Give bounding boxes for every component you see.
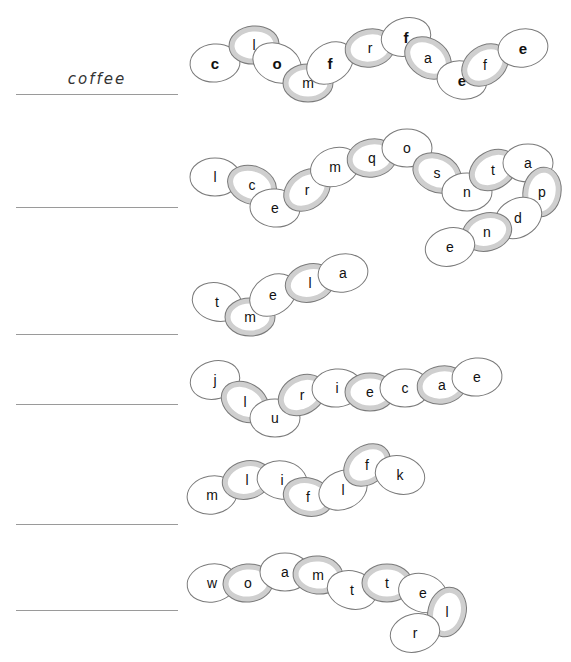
- ring-letter: p: [538, 184, 546, 200]
- ring-letter: e: [446, 239, 454, 255]
- ring-letter: l: [341, 482, 344, 498]
- chain-ring: e: [499, 28, 548, 67]
- ring-letter: o: [244, 575, 252, 591]
- chain-ring: e: [454, 359, 501, 395]
- ring-letter: a: [281, 564, 289, 580]
- ring-letter: s: [434, 165, 441, 181]
- ring-letter: r: [305, 182, 310, 198]
- ring-letter: d: [514, 210, 522, 226]
- ring-letter: n: [463, 184, 471, 200]
- chain-ring: k: [375, 454, 426, 496]
- ring-letter: t: [350, 582, 354, 598]
- ring-letter: a: [424, 50, 432, 66]
- ring-letter: a: [339, 265, 347, 281]
- ring-letter: e: [366, 384, 374, 400]
- ring-letter: e: [519, 40, 527, 57]
- ring-letter: o: [272, 55, 281, 72]
- ring-letter: j: [212, 372, 216, 388]
- ring-letter: f: [365, 457, 369, 473]
- ring-letter: e: [271, 200, 279, 216]
- ring-letter: q: [368, 150, 376, 166]
- ring-letter: c: [211, 55, 219, 72]
- ring-letter: u: [271, 410, 279, 426]
- ring-letter: f: [306, 489, 310, 505]
- ring-letter: a: [524, 155, 532, 171]
- ring-letter: l: [445, 604, 448, 620]
- chain-2: lcermqosntapdne: [193, 132, 562, 268]
- ring-letter: r: [413, 625, 418, 641]
- chain-ring: e: [425, 226, 476, 268]
- chain-3: tmela: [192, 253, 368, 333]
- letter-chains: clomfrfaefelcermqosntapdnetmelajluriecae…: [0, 0, 571, 662]
- ring-letter: m: [312, 567, 324, 583]
- chain-5: mliflfk: [188, 439, 426, 518]
- ring-letter: k: [397, 467, 405, 483]
- ring-letter: l: [213, 169, 216, 185]
- ring-letter: a: [438, 377, 446, 393]
- ring-letter: i: [335, 380, 338, 396]
- ring-letter: t: [385, 575, 389, 591]
- ring-letter: o: [403, 140, 411, 156]
- ring-letter: e: [419, 585, 427, 601]
- ring-letter: l: [245, 472, 248, 488]
- ring-letter: l: [308, 275, 311, 291]
- chain-4: jluriecae: [190, 359, 501, 434]
- ring-letter: m: [206, 487, 218, 503]
- chain-1: clomfrfaefe: [192, 16, 548, 100]
- ring-letter: c: [249, 177, 256, 193]
- ring-letter: m: [329, 159, 341, 175]
- ring-letter: w: [206, 575, 218, 591]
- ring-letter: t: [491, 162, 495, 178]
- ring-letter: i: [280, 472, 283, 488]
- chain-ring: a: [319, 253, 368, 292]
- ring-letter: f: [483, 57, 487, 73]
- ring-letter: t: [215, 294, 219, 310]
- ring-letter: e: [269, 287, 277, 303]
- ring-letter: l: [243, 394, 246, 410]
- chain-ring: r: [390, 612, 441, 654]
- ring-letter: e: [473, 369, 481, 385]
- chain-6: woamttelr: [188, 556, 469, 654]
- ring-letter: r: [368, 40, 373, 56]
- ring-letter: c: [402, 380, 409, 396]
- ring-letter: n: [483, 224, 491, 240]
- ring-letter: r: [300, 387, 305, 403]
